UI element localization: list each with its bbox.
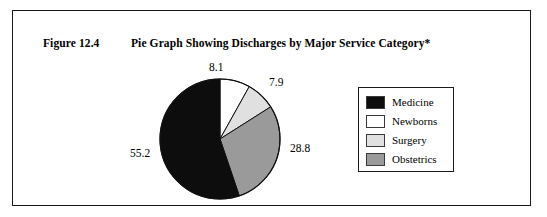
legend: Medicine Newborns Surgery Obstetrics — [358, 87, 454, 172]
figure-frame: Figure 12.4 Pie Graph Showing Discharges… — [12, 10, 531, 206]
legend-item-surgery: Surgery — [366, 131, 453, 150]
legend-swatch-medicine — [366, 96, 385, 109]
figure-number-label: Figure 12.4 — [43, 37, 99, 49]
legend-swatch-surgery — [366, 134, 385, 147]
legend-item-obstetrics: Obstetrics — [366, 150, 453, 169]
legend-label-newborns: Newborns — [392, 116, 437, 127]
pie-value-label-medicine: 55.2 — [130, 147, 150, 159]
pie-chart — [159, 78, 281, 200]
legend-item-medicine: Medicine — [366, 93, 453, 112]
figure-screenshot: Figure 12.4 Pie Graph Showing Discharges… — [0, 0, 547, 217]
legend-item-newborns: Newborns — [366, 112, 453, 131]
pie-chart-svg — [159, 78, 281, 200]
legend-label-obstetrics: Obstetrics — [392, 154, 437, 165]
legend-swatch-newborns — [366, 115, 385, 128]
legend-swatch-obstetrics — [366, 153, 385, 166]
legend-label-medicine: Medicine — [392, 97, 434, 108]
pie-value-label-surgery: 7.9 — [269, 76, 283, 88]
figure-title: Pie Graph Showing Discharges by Major Se… — [131, 37, 430, 49]
pie-value-label-newborns: 8.1 — [209, 61, 223, 73]
legend-label-surgery: Surgery — [392, 135, 427, 146]
pie-value-label-obstetrics: 28.8 — [290, 142, 310, 154]
